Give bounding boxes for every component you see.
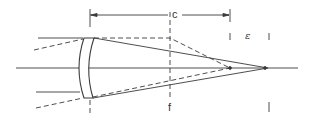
optics-diagram: c f ε <box>0 0 314 121</box>
label-epsilon: ε <box>245 31 250 41</box>
label-f: f <box>168 102 171 113</box>
ray-dashed-top-out <box>94 38 230 68</box>
ray-dashed-bottom-in <box>36 98 83 108</box>
arrowhead-left <box>91 14 97 17</box>
diagram-graphics <box>0 0 314 121</box>
ray-solid-bottom-out <box>93 68 268 98</box>
ray-dashed-bottom-out <box>93 68 230 97</box>
label-c: c <box>172 9 178 20</box>
arrowhead-right <box>223 14 229 17</box>
focal-point-near <box>229 67 232 70</box>
ray-dashed-top-in <box>34 39 83 50</box>
focal-point-far <box>264 67 267 70</box>
ray-solid-top-out <box>94 38 268 68</box>
